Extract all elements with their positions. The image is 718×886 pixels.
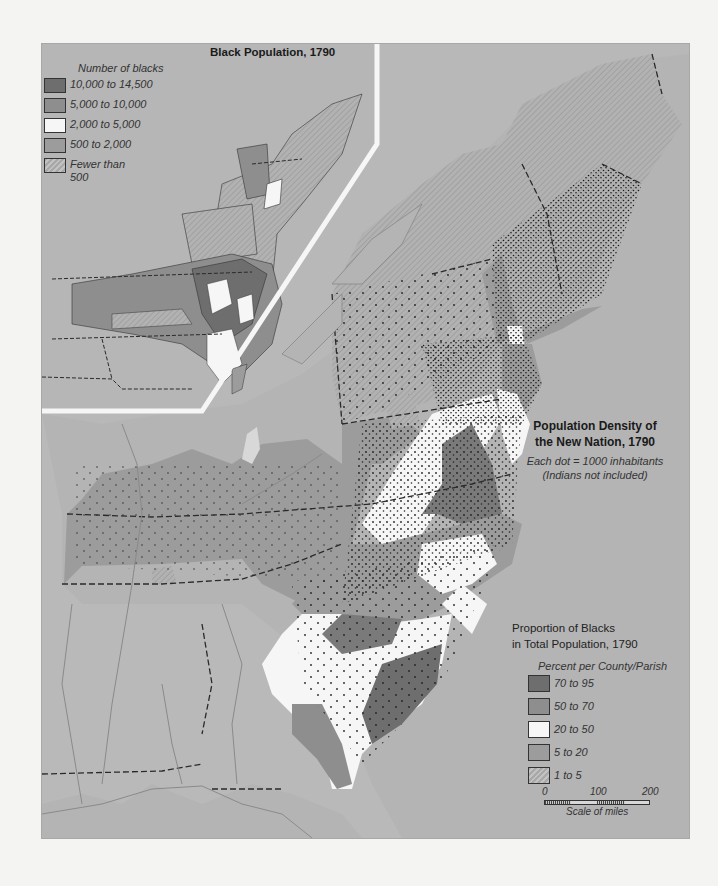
- inset-title: Black Population, 1790: [210, 46, 335, 58]
- legend-label: 70 to 95: [554, 677, 594, 690]
- proportion-title-line: Proportion of Blacks: [512, 620, 638, 636]
- subtitle-line: (Indians not included): [490, 468, 689, 482]
- legend-swatch: [44, 98, 66, 113]
- scale-bar-graphic: [544, 800, 650, 805]
- legend-label: 500 to 2,000: [70, 138, 131, 151]
- legend-swatch: [528, 675, 550, 692]
- proportion-legend-item: 1 to 5: [528, 767, 667, 784]
- subtitle-line: Each dot = 1000 inhabitants: [490, 454, 689, 468]
- legend-swatch: [528, 767, 550, 784]
- main-title: Population Density of the New Nation, 17…: [490, 418, 689, 450]
- proportion-title: Proportion of Blacks in Total Population…: [512, 620, 638, 652]
- legend-swatch: [44, 118, 66, 133]
- legend-swatch: [528, 698, 550, 715]
- inset-legend-item: 10,000 to 14,500: [44, 78, 164, 93]
- legend-swatch: [528, 744, 550, 761]
- legend-label: 20 to 50: [554, 723, 594, 736]
- scale-tick: 200: [642, 786, 659, 797]
- inset-legend-item: 500 to 2,000: [44, 138, 164, 153]
- legend-swatch: [44, 138, 66, 153]
- map-frame: Black Population, 1790 Number of blacks …: [42, 44, 689, 838]
- main-title-line: Population Density of: [490, 418, 689, 434]
- proportion-legend-item: 20 to 50: [528, 721, 667, 738]
- legend-label: 5 to 20: [554, 746, 588, 759]
- legend-label: 1 to 5: [554, 769, 582, 782]
- inset-legend-item: 5,000 to 10,000: [44, 98, 164, 113]
- inset-legend-heading: Number of blacks: [78, 62, 164, 74]
- legend-label: Fewer than 500: [70, 158, 130, 184]
- main-title-line: the New Nation, 1790: [490, 434, 689, 450]
- scale-bar: 0 100 200 Scale of miles: [542, 786, 662, 822]
- legend-swatch: [528, 721, 550, 738]
- scale-caption: Scale of miles: [566, 806, 628, 817]
- legend-label: 10,000 to 14,500: [70, 78, 153, 91]
- proportion-title-line: in Total Population, 1790: [512, 636, 638, 652]
- legend-label: 5,000 to 10,000: [70, 98, 146, 111]
- scale-tick: 100: [590, 786, 607, 797]
- legend-label: 2,000 to 5,000: [70, 118, 140, 131]
- proportion-legend-item: 70 to 95: [528, 675, 667, 692]
- proportion-legend-item: 5 to 20: [528, 744, 667, 761]
- inset-legend-item: Fewer than 500: [44, 158, 164, 184]
- legend-swatch: [44, 78, 66, 93]
- dots-mid-atlantic: [422, 334, 542, 424]
- proportion-legend-item: 50 to 70: [528, 698, 667, 715]
- proportion-legend-heading: Percent per County/Parish: [538, 660, 667, 672]
- legend-label: 50 to 70: [554, 700, 594, 713]
- main-subtitle: Each dot = 1000 inhabitants (Indians not…: [490, 454, 689, 482]
- scale-tick: 0: [542, 786, 548, 797]
- inset-legend: Number of blacks 10,000 to 14,500 5,000 …: [44, 62, 164, 189]
- legend-swatch: [44, 158, 66, 173]
- dots-kentucky: [72, 464, 342, 584]
- inset-legend-item: 2,000 to 5,000: [44, 118, 164, 133]
- proportion-legend: Percent per County/Parish 70 to 95 50 to…: [528, 660, 667, 790]
